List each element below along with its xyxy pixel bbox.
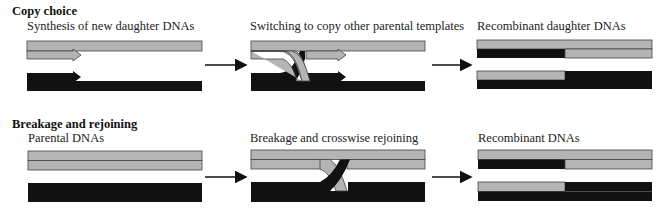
- parental-strand-gray: [27, 41, 202, 51]
- panel-synthesis: [27, 41, 202, 91]
- panel-switching: [251, 41, 425, 91]
- parental-strand-black: [27, 81, 202, 91]
- daughter-arrow-gray: [27, 49, 81, 61]
- panel-recombinant-daughter: [477, 40, 652, 89]
- panel-recombinant: [478, 150, 652, 201]
- recombination-diagram: [0, 0, 660, 209]
- panel-parental: [28, 151, 202, 202]
- panel-breakage-crosswise: [251, 150, 425, 202]
